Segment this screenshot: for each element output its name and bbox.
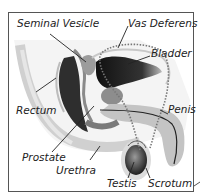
label-urethra: Urethra: [56, 165, 96, 176]
label-seminal-vesicle: Seminal Vesicle: [17, 18, 99, 29]
label-penis: Penis: [168, 104, 196, 115]
prostate-shape: [101, 87, 123, 105]
label-testis: Testis: [107, 178, 137, 189]
label-prostate: Prostate: [22, 152, 66, 163]
label-rectum: Rectum: [16, 105, 57, 116]
anatomy-illustration: [0, 0, 202, 195]
label-scrotum: Scrotum: [148, 178, 192, 189]
label-vas-deferens: Vas Deferens: [128, 18, 197, 29]
label-bladder: Bladder: [151, 48, 192, 59]
frame-corner-flourish: [194, 182, 200, 186]
testis-shape: [121, 140, 151, 180]
